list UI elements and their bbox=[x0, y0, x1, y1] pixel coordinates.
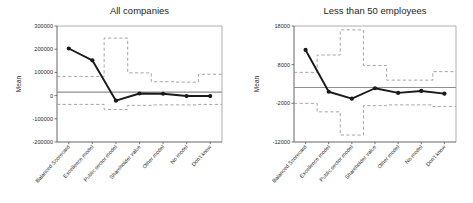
y-tick-label: 300000 bbox=[34, 23, 53, 29]
mean-data-point bbox=[185, 94, 189, 98]
y-tick-label: -200000 bbox=[32, 139, 53, 145]
y-axis-title: Mean bbox=[15, 75, 22, 92]
mean-data-point bbox=[67, 46, 71, 50]
x-category-label: Other model bbox=[376, 144, 400, 170]
mean-data-point bbox=[396, 91, 400, 95]
mean-data-point bbox=[114, 99, 118, 103]
chart-svg-all-companies: All companies-200000-1000000100000200000… bbox=[0, 0, 236, 203]
y-tick-label: 18000 bbox=[274, 23, 290, 29]
chart-title: Less than 50 employees bbox=[324, 5, 427, 16]
y-tick-label: -2000 bbox=[276, 100, 290, 106]
x-category-label: Don't know bbox=[190, 144, 212, 168]
y-tick-label: 0 bbox=[50, 93, 53, 99]
y-tick-label: 100000 bbox=[34, 69, 53, 75]
mean-data-point bbox=[350, 97, 354, 101]
mean-data-point bbox=[90, 58, 94, 62]
x-category-label: No model bbox=[169, 144, 189, 165]
y-tick-label: 8000 bbox=[278, 62, 290, 68]
mean-data-point bbox=[137, 91, 141, 95]
chart-title: All companies bbox=[110, 5, 169, 16]
mean-data-point bbox=[303, 48, 307, 52]
plot-frame bbox=[57, 26, 222, 142]
figure-container: All companies-200000-1000000100000200000… bbox=[0, 0, 473, 203]
mean-data-point bbox=[327, 90, 331, 94]
y-tick-label: -100000 bbox=[32, 116, 53, 122]
mean-line bbox=[306, 50, 445, 99]
y-tick-label: -12000 bbox=[273, 139, 290, 145]
mean-data-point bbox=[373, 86, 377, 90]
x-category-label: Don't know bbox=[424, 144, 446, 168]
mean-data-point bbox=[442, 92, 446, 96]
confidence-band-line bbox=[294, 103, 456, 135]
x-category-label: Other model bbox=[141, 144, 165, 170]
plot-frame bbox=[294, 26, 456, 142]
mean-data-point bbox=[208, 94, 212, 98]
mean-data-point bbox=[161, 92, 165, 96]
confidence-band-line bbox=[57, 38, 222, 82]
x-category-label: No model bbox=[404, 144, 424, 165]
y-tick-label: 200000 bbox=[34, 46, 53, 52]
mean-data-point bbox=[419, 89, 423, 93]
chart-panel-all-companies: All companies-200000-1000000100000200000… bbox=[0, 0, 236, 203]
chart-panel-less-than-50-employees: Less than 50 employees-12000-20008000180… bbox=[236, 0, 472, 203]
chart-svg-less-than-50-employees: Less than 50 employees-12000-20008000180… bbox=[236, 0, 473, 203]
confidence-band-line bbox=[57, 104, 222, 109]
y-axis-title: Mean bbox=[253, 75, 260, 92]
